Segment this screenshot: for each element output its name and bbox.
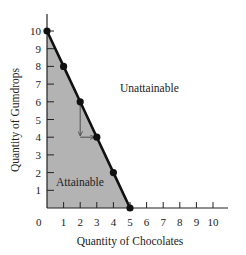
y-tick-label: 6 (36, 96, 42, 108)
y-tick-label: 3 (36, 149, 42, 161)
origin-label: 0 (36, 216, 42, 228)
unattainable-label: Unattainable (120, 82, 179, 94)
x-tick-label: 4 (111, 216, 117, 228)
frontier-point (126, 204, 133, 211)
ppf-chart: 12345678910 12345678910 Unattainable Att… (0, 0, 246, 255)
x-tick-label: 7 (160, 216, 166, 228)
y-tick-label: 10 (30, 25, 42, 37)
x-tick-label: 10 (208, 216, 220, 228)
x-tick-label: 6 (144, 216, 150, 228)
y-tick-label: 9 (36, 43, 42, 55)
x-tick-label: 8 (177, 216, 183, 228)
frontier-point (60, 63, 67, 70)
frontier-point (110, 169, 117, 176)
y-tick-label: 5 (36, 114, 42, 126)
x-axis-title: Quantity of Chocolates (77, 235, 184, 248)
y-tick-label: 4 (36, 131, 42, 143)
x-tick-label: 1 (61, 216, 67, 228)
frontier-point (77, 98, 84, 105)
y-tick-label: 1 (36, 184, 42, 196)
frontier-point (93, 134, 100, 141)
y-tick-label: 8 (36, 60, 42, 72)
y-axis-title: Quantity of Gumdrops (9, 67, 22, 172)
x-tick-label: 5 (127, 216, 133, 228)
y-tick-label: 2 (36, 167, 42, 179)
frontier-point (43, 27, 50, 34)
x-tick-label: 9 (194, 216, 200, 228)
x-tick-label: 2 (77, 216, 83, 228)
x-tick-label: 3 (94, 216, 100, 228)
y-tick-label: 7 (36, 78, 42, 90)
attainable-label: Attainable (56, 176, 104, 188)
